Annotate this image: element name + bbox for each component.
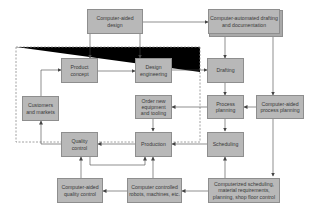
node-drafting: Drafting (207, 58, 244, 83)
node-product-concept: Product concept (61, 58, 98, 83)
node-quality-control: Quality control (61, 132, 98, 157)
node-computer-aided-process-planning: Computer-aided process planning (256, 95, 304, 119)
node-design-engineering: Design engineering (135, 58, 172, 83)
node-computerized-scheduling: Computerized scheduling, material requir… (208, 178, 280, 203)
node-computer-aided-quality-control: Computer-aided quality control (57, 178, 103, 203)
node-computer-aided-design: Computer-aided design (87, 9, 143, 34)
node-production: Production (135, 132, 172, 157)
node-customers-and-markets: Customers and markets (22, 96, 59, 121)
node-computer-controlled-robots: Computer controlled robots, machines, et… (127, 178, 182, 203)
node-process-planning: Process planning (207, 95, 244, 119)
node-computer-automated-drafting: Computer-automated drafting and document… (208, 9, 280, 34)
node-order-new-equipment: Order new equipment and tooling (135, 95, 172, 119)
node-scheduling: Scheduling (207, 132, 244, 157)
